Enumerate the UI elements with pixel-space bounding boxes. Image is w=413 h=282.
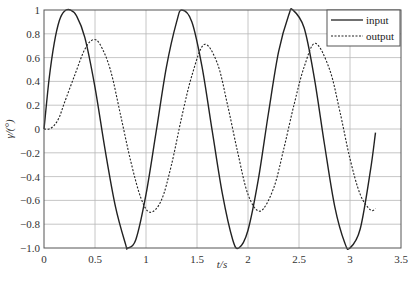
x-tick-label: 2: [245, 253, 251, 265]
x-axis-label: t/s: [217, 258, 227, 270]
x-tick-label: 3.5: [394, 253, 408, 265]
y-tick-label: −0.4: [20, 171, 40, 183]
line-chart: 00.511.522.533.5 10.80.60.40.20−0.2−0.4−…: [0, 0, 413, 282]
x-tick-label: 1.5: [190, 253, 204, 265]
y-axis-ticks: 10.80.60.40.20−0.2−0.4−0.6−0.8−1.0: [20, 4, 40, 254]
series-output-line: [44, 40, 376, 213]
y-tick-label: 1: [35, 4, 41, 16]
legend-output-label: output: [366, 30, 394, 42]
y-tick-label: −0.8: [20, 218, 40, 230]
x-tick-label: 1: [143, 253, 149, 265]
legend: input output: [327, 10, 400, 46]
y-tick-label: −1.0: [20, 242, 40, 254]
y-tick-label: −0.2: [20, 147, 40, 159]
y-tick-label: 0: [35, 123, 41, 135]
y-tick-label: 0.8: [26, 28, 40, 40]
y-tick-label: −0.6: [20, 194, 40, 206]
x-tick-label: 0.5: [88, 253, 102, 265]
y-axis-label: γ/(°): [3, 119, 16, 138]
legend-input-label: input: [366, 14, 389, 26]
y-tick-label: 0.4: [26, 75, 40, 87]
y-tick-label: 0.2: [26, 99, 40, 111]
x-tick-label: 2.5: [292, 253, 306, 265]
y-tick-label: 0.6: [26, 52, 40, 64]
x-tick-label: 3: [347, 253, 353, 265]
x-tick-label: 0: [41, 253, 47, 265]
